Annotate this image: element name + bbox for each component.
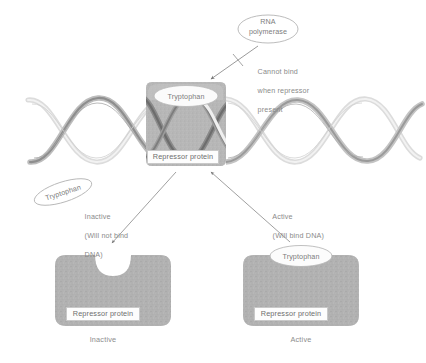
cannot-bind-line1: Cannot bind — [258, 67, 298, 76]
cannot-bind-line2: when repressor — [258, 86, 310, 95]
caption-inactive: Inactive — [73, 335, 133, 344]
repressor-protein-label-inactive: Repressor protein — [66, 307, 140, 321]
inactive-note-line1: Inactive — [85, 212, 111, 221]
inactive-note-line2: (Will not bind — [85, 231, 129, 240]
repressor-protein-label-bound: Repressor protein — [147, 150, 219, 164]
tryptophan-label-active: Tryptophan — [271, 252, 331, 261]
tryptophan-label-bound: Tryptophan — [156, 92, 216, 101]
active-note-line1: Active — [272, 212, 292, 221]
rna-polymerase-label: RNA polymerase — [238, 17, 298, 36]
inactive-note: Inactive (Will not bind DNA) — [76, 203, 128, 269]
cannot-bind-note: Cannot bind when repressor present — [249, 58, 309, 124]
active-note: Active (Will bind DNA) — [264, 203, 324, 250]
cannot-bind-line3: present — [258, 105, 283, 114]
inactive-note-line3: DNA) — [85, 250, 103, 259]
active-note-line2: (Will bind DNA) — [273, 231, 324, 240]
caption-active: Active — [271, 335, 331, 344]
repressor-protein-label-active: Repressor protein — [254, 307, 328, 321]
rna-polymerase-line1: RNA — [260, 17, 275, 26]
tryptophan-repressor-diagram: RNA polymerase Cannot bind when represso… — [0, 0, 426, 363]
diagram-graphics — [0, 0, 426, 363]
rna-polymerase-line2: polymerase — [249, 27, 287, 36]
